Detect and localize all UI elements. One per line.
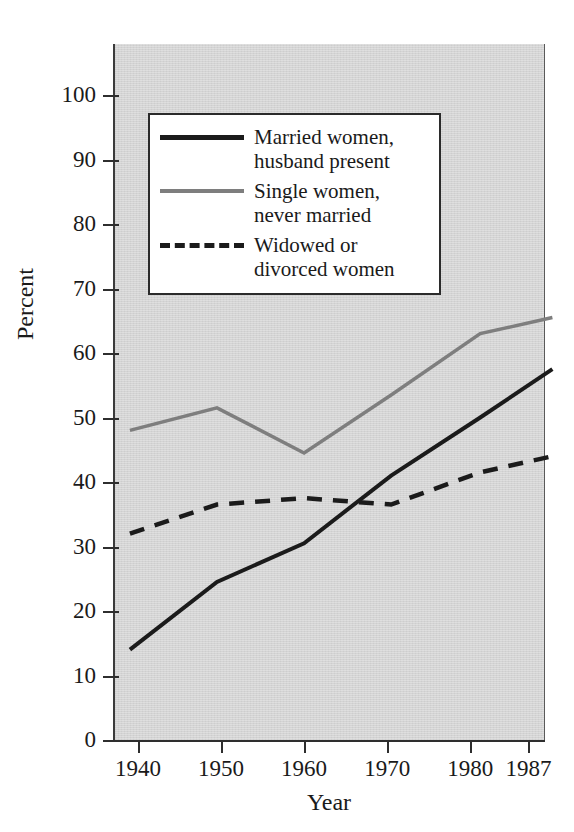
chart-legend: Married women, husband present Single wo… xyxy=(148,113,441,295)
legend-swatch-dashed-line-icon xyxy=(160,234,244,260)
series-line xyxy=(130,369,552,650)
chart-figure: Labor Force Participation 01020304050607… xyxy=(0,0,574,832)
legend-label: Widowed or divorced women xyxy=(254,234,395,281)
legend-swatch-gray-line-icon xyxy=(160,180,244,206)
legend-item-single: Single women, never married xyxy=(160,180,429,227)
legend-item-married: Married women, husband present xyxy=(160,126,429,173)
legend-label: Married women, husband present xyxy=(254,126,394,173)
legend-swatch-solid-line-icon xyxy=(160,126,244,152)
series-line xyxy=(130,456,552,533)
legend-label: Single women, never married xyxy=(254,180,380,227)
series-line xyxy=(130,318,552,453)
legend-item-widowed: Widowed or divorced women xyxy=(160,234,429,281)
